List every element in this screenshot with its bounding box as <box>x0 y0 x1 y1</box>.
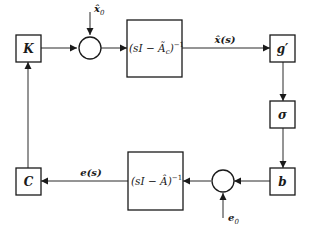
top-summing-junction <box>79 37 101 59</box>
block-b: b <box>270 168 295 195</box>
signal-es-label: e(s) <box>80 167 102 178</box>
block-c: C <box>16 168 41 195</box>
block-b-label: b <box>278 175 286 189</box>
block-bottom-transfer-function: (sI − Â)−1 <box>128 152 183 210</box>
block-sigma: σ <box>270 101 295 128</box>
block-sigma-label: σ <box>278 108 287 122</box>
block-k: K <box>16 35 41 62</box>
signal-e0-label: e0 <box>228 212 239 226</box>
block-g-label: g′ <box>277 42 289 56</box>
bottom-summing-junction <box>212 170 234 192</box>
block-top-transfer-function: (sI − Ãc)−1 <box>127 20 184 77</box>
block-g-prime: g′ <box>270 35 295 62</box>
signal-xs-label: x̂(s) <box>213 34 235 45</box>
block-c-label: C <box>24 175 34 189</box>
signal-x0-label: x̂0 <box>93 3 105 17</box>
block-diagram: K x̂0 (sI − Ãc)−1 x̂(s) g′ σ b e0 (sI − … <box>0 0 317 234</box>
block-k-label: K <box>22 42 34 56</box>
